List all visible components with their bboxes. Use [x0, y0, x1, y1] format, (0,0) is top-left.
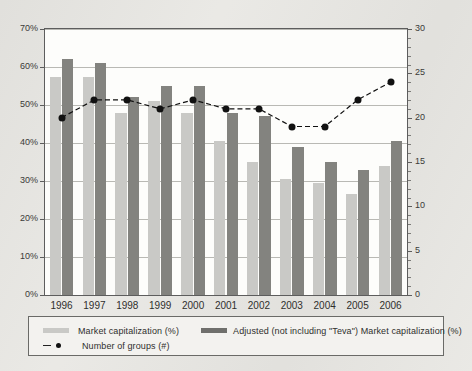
y-axis-right-tick-label: 15 [415, 156, 441, 166]
y-axis-right-minor-tick [408, 109, 411, 110]
y-axis-right-minor-tick [408, 135, 411, 136]
y-axis-left-tick-label: 10% [4, 251, 38, 261]
line-series-markers [45, 29, 407, 295]
y-axis-right-minor-tick [408, 198, 411, 199]
y-axis-right-minor-tick [408, 215, 411, 216]
line-marker-number-of-groups [58, 114, 65, 121]
legend-row-1: Market capitalization (%) Adjusted (not … [43, 323, 433, 338]
y-axis-right-minor-tick [408, 127, 411, 128]
y-axis-right-minor-tick [408, 268, 411, 269]
dark-bar-swatch-icon [201, 328, 227, 333]
y-axis-right-tick [408, 162, 412, 163]
legend-label-number-of-groups: Number of groups (#) [82, 341, 170, 351]
line-marker-number-of-groups [124, 96, 131, 103]
y-axis-right-minor-tick [408, 100, 411, 101]
line-marker-number-of-groups [321, 123, 328, 130]
dashed-line-dot-swatch-icon [43, 341, 73, 350]
chart-legend: Market capitalization (%) Adjusted (not … [28, 316, 444, 356]
y-axis-right-minor-tick [408, 56, 411, 57]
y-axis-right-tick-label: 20 [415, 112, 441, 122]
legend-item-adjusted-market-capitalization: Adjusted (not including "Teva") Market c… [201, 326, 462, 336]
y-axis-right-minor-tick [408, 171, 411, 172]
light-bar-swatch-icon [43, 328, 69, 333]
legend-row-2: Number of groups (#) [43, 338, 433, 353]
y-axis-right-tick-label: 25 [415, 67, 441, 77]
y-axis-right-tick [408, 29, 412, 30]
y-axis-right-minor-tick [408, 277, 411, 278]
y-axis-right-tick-label: 10 [415, 200, 441, 210]
y-axis-left-tick-label: 40% [4, 137, 38, 147]
y-axis-left-tick-label: 70% [4, 23, 38, 33]
y-axis-left-tick-label: 0% [4, 289, 38, 299]
y-axis-left-tick-label: 30% [4, 175, 38, 185]
y-axis-right-minor-tick [408, 91, 411, 92]
y-axis-right-minor-tick [408, 82, 411, 83]
legend-item-market-capitalization: Market capitalization (%) [43, 326, 179, 336]
chart-plot-area [44, 28, 408, 296]
y-axis-right-tick-label: 0 [415, 289, 441, 299]
y-axis-right-tick-label: 30 [415, 23, 441, 33]
y-axis-right-minor-tick [408, 144, 411, 145]
y-axis-right-tick-label: 5 [415, 245, 441, 255]
y-axis-right-minor-tick [408, 47, 411, 48]
y-axis-right-tick [408, 206, 412, 207]
y-axis-right-minor-tick [408, 180, 411, 181]
y-axis-right-tick [408, 295, 412, 296]
line-marker-number-of-groups [157, 105, 164, 112]
line-marker-number-of-groups [223, 105, 230, 112]
y-axis-right-minor-tick [408, 153, 411, 154]
y-axis-left-tick-label: 50% [4, 99, 38, 109]
y-axis-right-minor-tick [408, 65, 411, 66]
legend-item-number-of-groups: Number of groups (#) [43, 341, 170, 351]
y-axis-right-minor-tick [408, 189, 411, 190]
y-axis-right-minor-tick [408, 38, 411, 39]
y-axis-right-minor-tick [408, 224, 411, 225]
y-axis-right-minor-tick [408, 242, 411, 243]
y-axis-right-tick [408, 118, 412, 119]
y-axis-right-tick [408, 251, 412, 252]
y-axis-left-tick-label: 20% [4, 213, 38, 223]
y-axis-right-minor-tick [408, 286, 411, 287]
y-axis-left-tick-label: 60% [4, 61, 38, 71]
line-marker-number-of-groups [288, 123, 295, 130]
legend-label-market-capitalization: Market capitalization (%) [78, 326, 179, 336]
line-marker-number-of-groups [255, 105, 262, 112]
page-background: 0%10%20%30%40%50%60%70% 051015202530 199… [0, 0, 472, 371]
line-marker-number-of-groups [190, 96, 197, 103]
line-marker-number-of-groups [354, 96, 361, 103]
line-marker-number-of-groups [387, 79, 394, 86]
y-axis-right-tick [408, 73, 412, 74]
line-marker-number-of-groups [91, 96, 98, 103]
y-axis-right-minor-tick [408, 233, 411, 234]
x-axis-tick-label: 2006 [371, 300, 411, 311]
legend-label-adjusted-market-capitalization: Adjusted (not including "Teva") Market c… [233, 326, 462, 336]
y-axis-right-minor-tick [408, 260, 411, 261]
